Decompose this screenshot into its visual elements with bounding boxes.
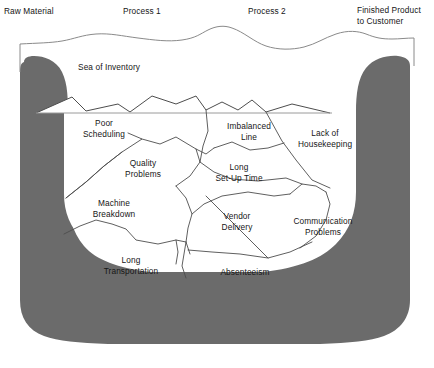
flow-header-process-1: Process 1 bbox=[123, 6, 161, 17]
sea-of-inventory-label: Sea of Inventory bbox=[78, 62, 140, 72]
flow-header-finished-product: Finished Product to Customer bbox=[357, 5, 421, 26]
water-surface-wave bbox=[20, 26, 414, 49]
problem-label-communication-problems: Communication Problems bbox=[294, 216, 353, 237]
problem-label-poor-scheduling: Poor Scheduling bbox=[83, 118, 125, 139]
flow-header-raw-material: Raw Material bbox=[4, 6, 54, 17]
diagram-canvas bbox=[0, 0, 434, 368]
flow-header-process-2: Process 2 bbox=[248, 6, 286, 17]
problem-label-long-transportation: Long Transportation bbox=[104, 255, 159, 276]
problem-label-absenteeism: Absenteeism bbox=[220, 267, 269, 278]
problem-label-vendor-delivery: Vendor Delivery bbox=[222, 211, 253, 232]
sea-of-inventory-diagram: Raw Material Process 1 Process 2 Finishe… bbox=[0, 0, 434, 368]
problem-label-lack-of-housekeeping: Lack of Housekeeping bbox=[298, 128, 352, 149]
problem-label-quality-problems: Quality Problems bbox=[125, 158, 161, 179]
problem-label-machine-breakdown: Machine Breakdown bbox=[93, 198, 135, 219]
problem-label-imbalanced-line: Imbalanced Line bbox=[227, 121, 271, 142]
problem-mass-body bbox=[36, 96, 330, 262]
problem-label-long-set-up-time: Long Set-Up Time bbox=[215, 162, 262, 183]
